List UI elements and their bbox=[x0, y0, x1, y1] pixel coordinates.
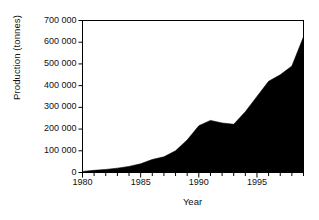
x-axis-title: Year bbox=[82, 196, 303, 207]
y-tick-label-500000: 500 000 bbox=[19, 59, 77, 68]
y-tick-label-400000: 400 000 bbox=[19, 81, 77, 90]
x-tick-label-1995: 1995 bbox=[237, 178, 277, 187]
y-tick-label-700000: 700 000 bbox=[19, 16, 77, 25]
y-tick-label-0: 0 bbox=[19, 168, 77, 177]
y-tick-label-600000: 600 000 bbox=[19, 37, 77, 46]
x-tick-label-1985: 1985 bbox=[121, 178, 161, 187]
y-tick-label-200000: 200 000 bbox=[19, 124, 77, 133]
y-tick-label-300000: 300 000 bbox=[19, 102, 77, 111]
y-tick-label-100000: 100 000 bbox=[19, 146, 77, 155]
production-area-chart: Production (tonnes) Year 0100 000200 000… bbox=[0, 0, 319, 220]
x-tick-label-1980: 1980 bbox=[63, 178, 103, 187]
x-tick-label-1990: 1990 bbox=[179, 178, 219, 187]
